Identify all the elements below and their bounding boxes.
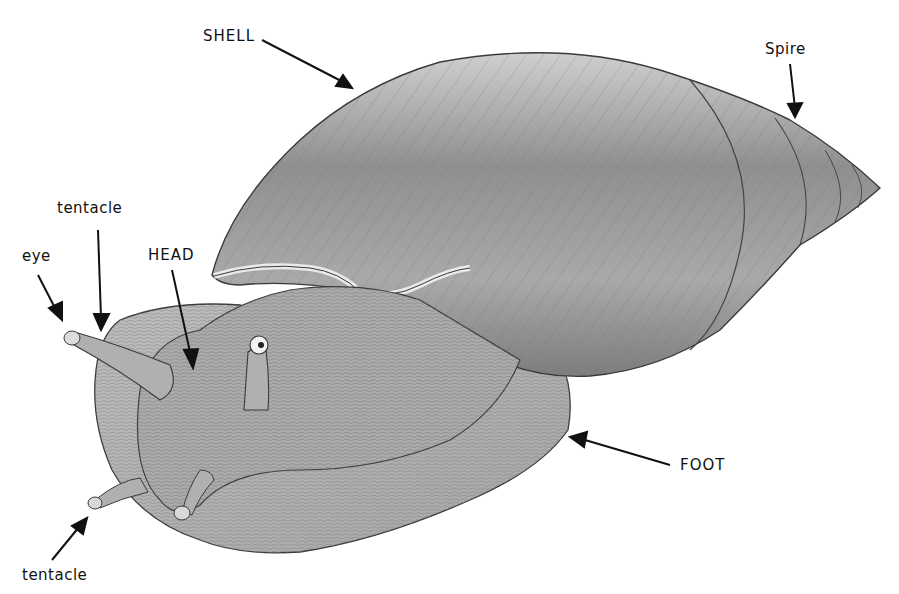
arrow-tentacle-top [94, 230, 109, 330]
label-eye: eye [22, 247, 51, 265]
label-shell: SHELL [203, 27, 255, 45]
label-head: HEAD [148, 246, 195, 264]
label-tentacle-bottom: tentacle [22, 566, 87, 584]
label-spire: Spire [765, 40, 806, 58]
arrow-tentacle-bottom [52, 518, 87, 560]
arrow-foot [570, 432, 670, 465]
snail-illustration [0, 0, 899, 594]
label-tentacle-top: tentacle [57, 199, 122, 217]
label-foot: FOOT [680, 456, 725, 474]
arrow-spire [788, 64, 802, 117]
snail-anatomy-diagram: SHELL Spire tentacle eye HEAD FOOT tenta… [0, 0, 899, 594]
arrow-eye [38, 275, 62, 320]
arrow-shell [262, 40, 352, 88]
